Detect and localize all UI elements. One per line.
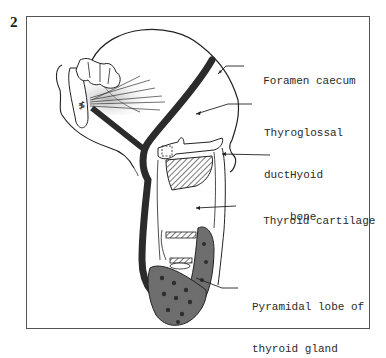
label-text: Foramen caecum [263, 75, 355, 87]
hyoid-bone-shape [158, 138, 223, 159]
label-text: Pyramidal lobe of [252, 300, 364, 314]
label-foramen-caecum: Foramen caecum [250, 60, 356, 88]
label-text: Thyroglossal [264, 126, 343, 140]
svg-text:≸: ≸ [78, 100, 86, 110]
label-thyroid-cartilage: Thyroid cartilage [250, 200, 375, 228]
label-pyramidal-lobe: Pyramidal lobe of thyroid gland [252, 272, 364, 358]
label-text: Hyoid [290, 168, 323, 182]
label-text: thyroid gland [252, 342, 364, 356]
larynx-outline [218, 148, 225, 285]
thyroid-cartilage-hatch [166, 156, 212, 190]
label-text: Thyroid cartilage [263, 215, 375, 227]
